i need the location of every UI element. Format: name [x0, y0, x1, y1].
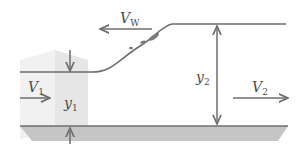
turbulence-marks: [129, 32, 160, 49]
wave-velocity-label: VW: [120, 10, 140, 28]
hydraulic-jump-diagram: VW y1 V1 y2 V2: [0, 0, 308, 150]
downstream-velocity-label: V2: [252, 79, 268, 97]
channel-bed: [20, 126, 288, 141]
y2-label: y2: [195, 69, 210, 87]
